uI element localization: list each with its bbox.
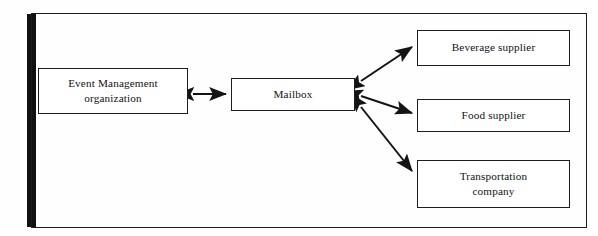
node-mailbox-label: Mailbox: [274, 87, 313, 102]
node-mailbox: Mailbox: [231, 78, 355, 111]
node-transportation-company-label: Transportationcompany: [460, 169, 528, 199]
node-event-management: Event Managementorganization: [38, 68, 188, 114]
node-event-management-label: Event Managementorganization: [68, 76, 158, 106]
node-food-supplier-label: Food supplier: [462, 108, 526, 123]
node-food-supplier: Food supplier: [417, 99, 570, 132]
node-transportation-company: Transportationcompany: [417, 160, 570, 208]
diagram-page: Event Managementorganization Mailbox Bev…: [0, 0, 598, 236]
node-beverage-supplier: Beverage supplier: [417, 30, 570, 66]
node-beverage-supplier-label: Beverage supplier: [452, 40, 536, 55]
